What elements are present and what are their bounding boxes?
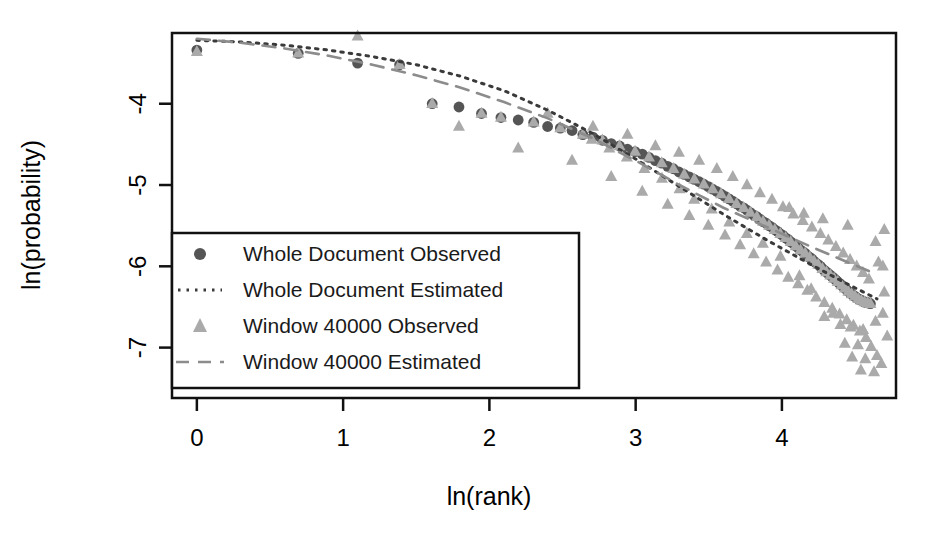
- x-tick-label: 1: [336, 424, 349, 451]
- legend-label: Window 40000 Observed: [243, 314, 479, 337]
- legend-label: Whole Document Observed: [243, 242, 501, 265]
- y-tick-label: -7: [124, 337, 151, 358]
- data-point: [542, 121, 553, 132]
- chart-svg: 01234 -4-5-6-7 ln(rank) ln(probability) …: [0, 0, 939, 548]
- figure: 01234 -4-5-6-7 ln(rank) ln(probability) …: [0, 0, 939, 548]
- x-tick-label: 3: [629, 424, 642, 451]
- y-tick-label: -5: [124, 174, 151, 195]
- data-point: [454, 102, 465, 113]
- legend-circle-icon: [194, 248, 206, 260]
- x-tick-label: 0: [190, 424, 203, 451]
- x-tick-label: 2: [483, 424, 496, 451]
- y-tick-label: -6: [124, 256, 151, 277]
- y-axis-title: ln(probability): [17, 140, 45, 290]
- y-tick-label: -4: [124, 93, 151, 114]
- legend-label: Whole Document Estimated: [243, 278, 503, 301]
- x-axis-title: ln(rank): [447, 482, 532, 510]
- legend-label: Window 40000 Estimated: [243, 350, 481, 373]
- data-point: [513, 115, 524, 126]
- chart-legend: Whole Document ObservedWhole Document Es…: [172, 233, 579, 388]
- x-tick-label: 4: [775, 424, 788, 451]
